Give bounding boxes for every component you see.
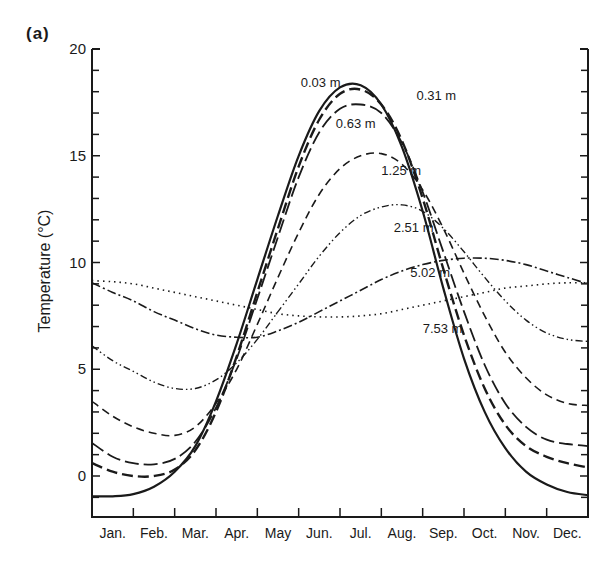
y-tick-label: 15 xyxy=(56,147,86,164)
x-tick-label: Jun. xyxy=(297,525,341,541)
series-line-2-51m xyxy=(92,205,588,390)
x-tick-label: Aug. xyxy=(380,525,424,541)
x-tick-label: Nov. xyxy=(504,525,548,541)
x-tick-label: Dec. xyxy=(545,525,589,541)
x-tick-label: Mar. xyxy=(173,525,217,541)
series-label: 0.31 m xyxy=(416,88,456,103)
series-label: 2.51 m xyxy=(394,220,434,235)
series-line-0-31m xyxy=(92,89,588,477)
x-tick-label: Sep. xyxy=(421,525,465,541)
x-tick-label: May xyxy=(256,525,300,541)
series-line-1-25m xyxy=(92,153,588,436)
series-line-0-03m xyxy=(92,84,588,497)
y-tick-label: 5 xyxy=(56,360,86,377)
x-tick-label: Apr. xyxy=(215,525,259,541)
y-tick-label: 10 xyxy=(56,254,86,271)
y-tick-label: 20 xyxy=(56,40,86,57)
series-line-7-53m xyxy=(92,281,588,317)
series-label: 0.03 m xyxy=(301,75,341,90)
x-tick-label: Feb. xyxy=(132,525,176,541)
series-label: 7.53 m xyxy=(423,321,463,336)
series-label: 1.25 m xyxy=(381,163,421,178)
series-label: 5.02 m xyxy=(410,265,450,280)
y-tick-label: 0 xyxy=(56,467,86,484)
series-label: 0.63 m xyxy=(336,116,376,131)
series-line-0-63m xyxy=(92,104,588,464)
x-tick-label: Jul. xyxy=(339,525,383,541)
series-line-5-02m xyxy=(92,258,588,338)
series-lines xyxy=(92,84,588,497)
x-tick-label: Jan. xyxy=(91,525,135,541)
x-tick-label: Oct. xyxy=(463,525,507,541)
